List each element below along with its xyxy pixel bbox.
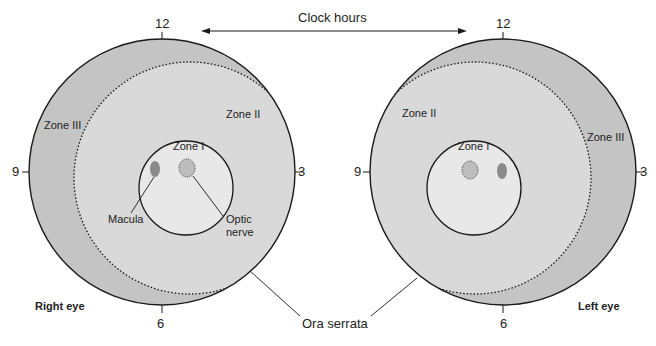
left-eye-optic-nerve <box>462 161 478 179</box>
right-eye-macula <box>150 161 160 177</box>
optic-nerve-label-line1: Optic <box>226 213 252 225</box>
right-eye-zone2-label: Zone II <box>226 108 260 120</box>
left-eye-clock-6: 6 <box>500 318 507 330</box>
left-eye-clock-12: 12 <box>496 18 510 30</box>
left-eye-clock-9: 9 <box>354 166 361 178</box>
macula-label: Macula <box>108 213 143 225</box>
right-eye-clock-12: 12 <box>155 18 169 30</box>
left-eye-zone3-label: Zone III <box>587 131 624 143</box>
ora-serrata-leader-left <box>371 278 417 316</box>
optic-nerve-label-line2: nerve <box>226 226 254 238</box>
right-eye-clock-9: 9 <box>12 166 19 178</box>
right-eye-zone3-label: Zone III <box>44 119 81 131</box>
left-eye-zone1 <box>427 141 521 235</box>
right-eye-clock-3: 3 <box>298 166 305 178</box>
left-eye-title: Left eye <box>578 300 620 312</box>
ora-serrata-label: Ora serrata <box>302 318 368 330</box>
left-eye-zone2-label: Zone II <box>402 107 436 119</box>
left-eye-macula <box>497 163 507 179</box>
right-eye-zone1 <box>139 141 233 235</box>
right-eye-zone1-label: Zone I <box>173 140 204 152</box>
left-eye-zone1-label: Zone I <box>458 140 489 152</box>
eye-zones-diagram <box>0 0 656 346</box>
left-eye-diagram <box>359 32 643 313</box>
clock-hours-arrow <box>201 28 467 34</box>
right-eye-optic-nerve <box>179 159 195 177</box>
right-eye-title: Right eye <box>35 300 85 312</box>
right-eye-clock-6: 6 <box>157 318 164 330</box>
ora-serrata-leader-right <box>250 271 300 316</box>
left-eye-clock-3: 3 <box>640 166 647 178</box>
clock-hours-label: Clock hours <box>298 12 367 24</box>
right-eye-diagram <box>22 32 306 313</box>
